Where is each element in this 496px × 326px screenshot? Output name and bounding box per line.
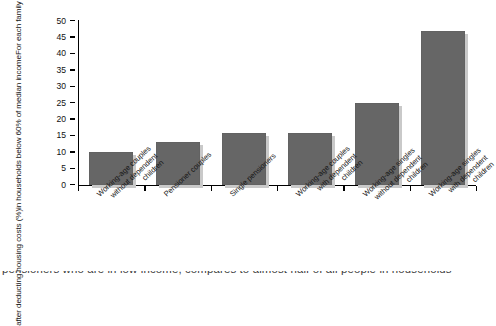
- y-axis-tick: 35: [0, 65, 78, 76]
- y-axis-tick: 40: [0, 48, 78, 59]
- y-axis-tick: 20: [0, 114, 78, 125]
- y-axis-tick-label: 25: [56, 98, 66, 109]
- clipped-body-text: pensioners who are in low income, compar…: [0, 271, 488, 285]
- y-axis-tick-label: 30: [56, 81, 66, 92]
- y-axis-tick: 0: [0, 180, 78, 191]
- y-axis-tick-label: 10: [56, 147, 66, 158]
- y-axis-tick: 30: [0, 81, 78, 92]
- y-axis-tick-mark: [70, 184, 75, 185]
- y-axis-tick-mark: [70, 69, 75, 70]
- y-axis-tick-label: 40: [56, 48, 66, 59]
- x-axis-tick-mark: [78, 186, 79, 191]
- clipped-body-text-line: pensioners who are in low income, compar…: [2, 271, 452, 276]
- y-axis-tick-mark: [70, 168, 75, 169]
- x-axis-tick-mark: [277, 186, 278, 191]
- y-axis-tick-label: 0: [61, 180, 66, 191]
- y-axis-tick-mark: [70, 20, 75, 21]
- y-axis-line: [78, 20, 79, 186]
- x-axis-tick-mark: [343, 186, 344, 191]
- y-axis-tick-mark: [70, 135, 75, 136]
- x-axis-tick-mark: [410, 186, 411, 191]
- y-axis-tick-label: 15: [56, 130, 66, 141]
- y-axis-tick-mark: [70, 53, 75, 54]
- y-axis-tick: 25: [0, 98, 78, 109]
- y-axis-tick: 50: [0, 16, 78, 27]
- y-axis-tick-mark: [70, 86, 75, 87]
- y-axis-tick-mark: [70, 118, 75, 119]
- x-axis-tick-mark: [144, 186, 145, 191]
- y-axis-tick-label: 5: [61, 163, 66, 174]
- y-axis-tick-label: 35: [56, 65, 66, 76]
- y-axis-title-line-1: For each family type, proportion of the …: [13, 0, 24, 55]
- x-axis-tick-mark: [211, 186, 212, 191]
- y-axis-tick: 10: [0, 147, 78, 158]
- y-axis-tick: 5: [0, 163, 78, 174]
- x-axis-tick-mark: [476, 186, 477, 191]
- y-axis-tick: 15: [0, 130, 78, 141]
- y-axis-tick-mark: [70, 102, 75, 103]
- y-axis-tick: 45: [0, 32, 78, 43]
- y-axis-tick-mark: [70, 36, 75, 37]
- y-axis-title-line-3: after deducting housing costs (%): [13, 209, 24, 326]
- y-axis-tick-label: 50: [56, 16, 66, 27]
- y-axis-tick-mark: [70, 151, 75, 152]
- y-axis-tick-label: 20: [56, 114, 66, 125]
- y-axis-tick-label: 45: [56, 32, 66, 43]
